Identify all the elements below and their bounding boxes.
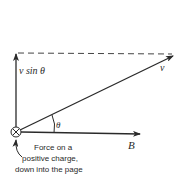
caption-line-3: down into the page	[15, 165, 83, 174]
force-diagram: v sin θ v θ B Force on a positive charge…	[0, 0, 187, 186]
b-field-label: B	[128, 139, 135, 151]
theta-label: θ	[56, 120, 61, 130]
caption-line-2: positive charge,	[22, 154, 78, 163]
force-into-page-icon	[11, 127, 21, 137]
v-label: v	[160, 62, 165, 73]
v-sin-theta-label: v sin θ	[19, 65, 45, 76]
dashed-projection-line	[18, 53, 172, 54]
magnetic-field-arrow	[21, 132, 140, 134]
theta-arc	[52, 115, 55, 133]
caption-line-1: Force on a	[34, 143, 73, 152]
